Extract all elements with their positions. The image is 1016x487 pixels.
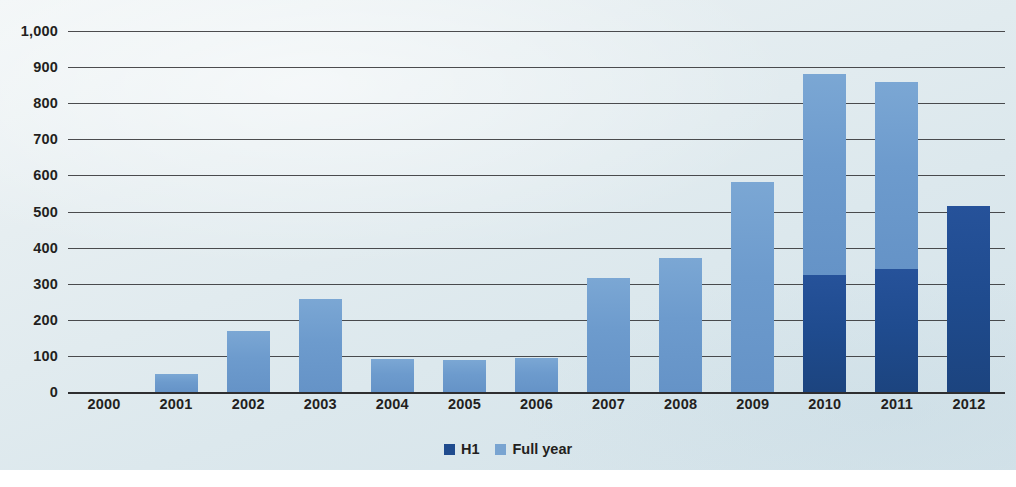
bar-segment-full-year xyxy=(371,359,414,392)
bar-group xyxy=(371,31,414,392)
y-axis-tick-label: 200 xyxy=(0,312,58,328)
y-axis-tick-label: 600 xyxy=(0,167,58,183)
legend-item[interactable]: Full year xyxy=(495,441,572,457)
x-axis-labels: 2000200120022003200420052006200720082009… xyxy=(68,396,1005,422)
chart-legend: H1Full year xyxy=(0,441,1016,457)
bar-segment-full-year xyxy=(299,299,342,392)
y-axis-tick-label: 800 xyxy=(0,95,58,111)
legend-swatch-full-year xyxy=(495,444,506,455)
y-axis-tick-label: 900 xyxy=(0,59,58,75)
bar-segment-full-year xyxy=(659,258,702,392)
bar-segment-h1 xyxy=(947,206,990,392)
page-bottom-margin xyxy=(0,470,1016,487)
bar-group xyxy=(83,31,126,392)
chart-panel: 1,0009008007006005004003002001000 200020… xyxy=(0,0,1016,470)
bar-group xyxy=(947,31,990,392)
bar-group xyxy=(803,31,846,392)
legend-swatch-h1 xyxy=(444,444,455,455)
y-axis-tick-label: 700 xyxy=(0,131,58,147)
bar-segment-full-year xyxy=(875,82,918,270)
bar-series-area xyxy=(68,31,1005,392)
bar-segment-full-year xyxy=(731,182,774,392)
y-axis-tick-label: 500 xyxy=(0,204,58,220)
bar-segment-full-year xyxy=(227,331,270,392)
y-axis-tick-label: 100 xyxy=(0,348,58,364)
bar-segment-full-year xyxy=(155,374,198,392)
legend-label: Full year xyxy=(512,441,572,457)
bar-segment-full-year xyxy=(803,74,846,274)
bar-group xyxy=(443,31,486,392)
legend-label: H1 xyxy=(461,441,480,457)
bar-segment-h1 xyxy=(803,275,846,392)
bar-segment-full-year xyxy=(587,278,630,392)
legend-item[interactable]: H1 xyxy=(444,441,480,457)
bar-group xyxy=(587,31,630,392)
bar-segment-h1 xyxy=(875,269,918,392)
bar-group xyxy=(155,31,198,392)
y-axis-tick-label: 1,000 xyxy=(0,23,58,39)
y-axis-tick-label: 300 xyxy=(0,276,58,292)
bar-group xyxy=(731,31,774,392)
y-axis-labels: 1,0009008007006005004003002001000 xyxy=(0,31,58,392)
bar-group xyxy=(875,31,918,392)
y-axis-tick-label: 400 xyxy=(0,240,58,256)
y-axis-tick-label: 0 xyxy=(0,384,58,400)
bar-segment-full-year xyxy=(443,360,486,392)
bar-group xyxy=(515,31,558,392)
x-axis-tick-label: 2012 xyxy=(926,396,1012,412)
bar-group xyxy=(227,31,270,392)
bar-group xyxy=(299,31,342,392)
bar-group xyxy=(659,31,702,392)
x-axis-baseline xyxy=(68,392,1005,394)
bar-segment-full-year xyxy=(515,358,558,392)
